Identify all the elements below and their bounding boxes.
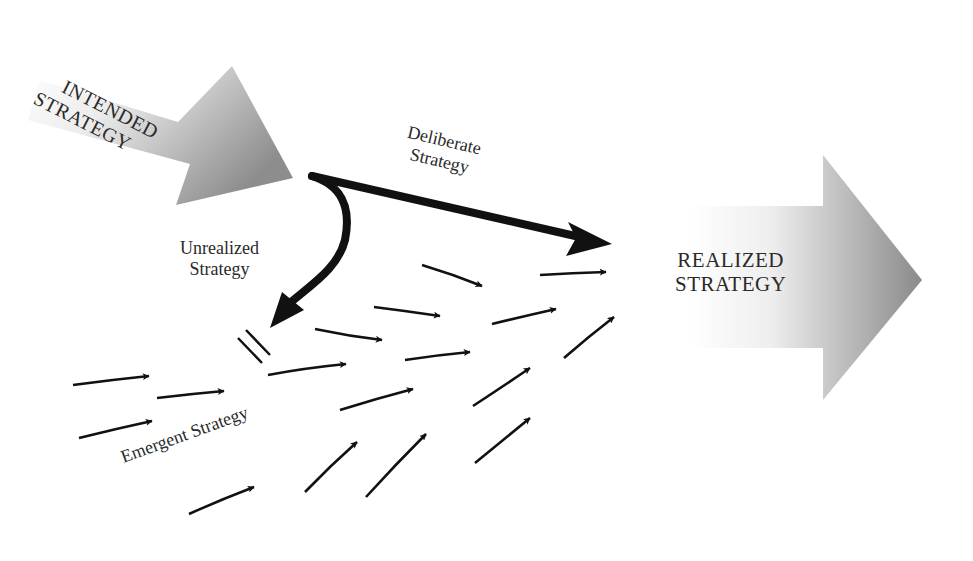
realized-strategy-label: REALIZED STRATEGY (675, 248, 786, 296)
realized-label-line-1: REALIZED (675, 248, 786, 272)
emergent-strategy-arrows (73, 265, 614, 514)
deliberate-strategy-arrow (312, 176, 612, 256)
realized-label-line-2: STRATEGY (675, 272, 786, 296)
unrealized-label-line-2: Strategy (180, 259, 259, 280)
unrealized-label-line-1: Unrealized (180, 238, 259, 259)
unrealized-strategy-label: Unrealized Strategy (180, 238, 259, 279)
strategy-diagram (0, 0, 973, 561)
